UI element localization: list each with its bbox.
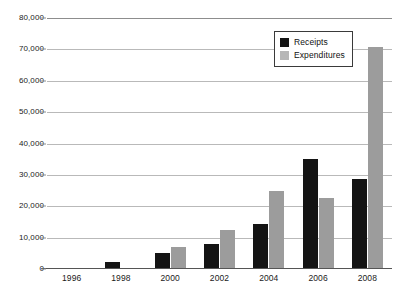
x-axis-tick-label: 1998	[111, 274, 130, 283]
bar-receipts-2008	[352, 179, 367, 269]
y-axis-tick-label: 50,000	[0, 108, 44, 116]
y-axis-tick-mark	[41, 80, 46, 81]
y-axis-tick-mark	[41, 49, 46, 50]
bar-receipts-2000	[155, 253, 170, 269]
bar-expenditures-2004	[269, 191, 284, 269]
y-axis-tick-label: 10,000	[0, 234, 44, 242]
bar-receipts-2002	[204, 244, 219, 269]
bar-expenditures-2002	[220, 230, 235, 269]
y-axis-tick-label: 60,000	[0, 77, 44, 85]
bar-expenditures-2000	[171, 247, 186, 269]
bar-receipts-2004	[253, 224, 268, 269]
x-axis-tick-label: 2002	[210, 274, 229, 283]
y-axis-tick-mark	[41, 174, 46, 175]
legend-item-receipts: Receipts	[280, 36, 345, 49]
bar-group	[56, 18, 87, 269]
y-axis-tick-label: 30,000	[0, 171, 44, 179]
y-axis-tick-mark	[41, 269, 46, 270]
bar-group	[352, 18, 383, 269]
y-axis-tick-mark	[41, 237, 46, 238]
bar-group	[204, 18, 235, 269]
legend-swatch-expenditures	[280, 51, 289, 60]
y-axis-tick-mark	[41, 206, 46, 207]
bar-group	[155, 18, 186, 269]
bar-chart: 010,00020,00030,00040,00050,00060,00070,…	[0, 0, 400, 296]
legend-label-expenditures: Expenditures	[294, 51, 345, 60]
y-axis-tick-label: 0	[0, 265, 44, 273]
x-axis-tick-label: 2004	[259, 274, 278, 283]
bar-receipts-2006	[303, 159, 318, 269]
x-axis-tick-label: 2008	[358, 274, 377, 283]
y-axis-tick-label: 40,000	[0, 140, 44, 148]
chart-legend: Receipts Expenditures	[274, 31, 353, 67]
x-axis-tick-label: 2000	[161, 274, 180, 283]
legend-item-expenditures: Expenditures	[280, 49, 345, 62]
y-axis-tick-label: 80,000	[0, 14, 44, 22]
legend-swatch-receipts	[280, 38, 289, 47]
bar-expenditures-2006	[319, 198, 334, 269]
y-axis-tick-label: 70,000	[0, 45, 44, 53]
y-axis-tick-mark	[41, 143, 46, 144]
x-axis-line	[41, 268, 392, 269]
y-axis-tick-mark	[41, 112, 46, 113]
bar-expenditures-2008	[368, 47, 383, 269]
y-axis-tick-label: 20,000	[0, 202, 44, 210]
legend-label-receipts: Receipts	[294, 38, 328, 47]
bar-group	[105, 18, 136, 269]
y-axis-tick-mark	[41, 18, 46, 19]
x-axis-tick-label: 2006	[308, 274, 327, 283]
x-axis-tick-label: 1996	[62, 274, 81, 283]
